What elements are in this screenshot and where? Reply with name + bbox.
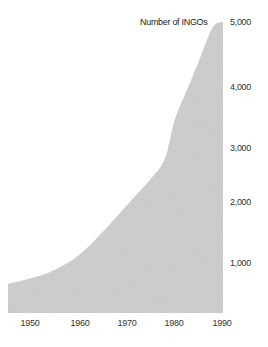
x-tick-1980: 1980 — [165, 318, 184, 328]
y-tick-4000: 4,000 — [230, 82, 251, 92]
ingo-area — [8, 22, 223, 313]
y-tick-3000: 3,000 — [230, 143, 251, 153]
y-tick-5000: 5,000 — [230, 17, 251, 27]
series-label: Number of INGOs — [140, 17, 208, 27]
y-tick-1000: 1,000 — [230, 258, 251, 268]
y-tick-2000: 2,000 — [230, 197, 251, 207]
x-tick-1970: 1970 — [118, 318, 137, 328]
x-tick-1950: 1950 — [21, 318, 40, 328]
x-tick-1990: 1990 — [213, 318, 232, 328]
area-chart — [0, 0, 268, 347]
x-tick-1960: 1960 — [71, 318, 90, 328]
